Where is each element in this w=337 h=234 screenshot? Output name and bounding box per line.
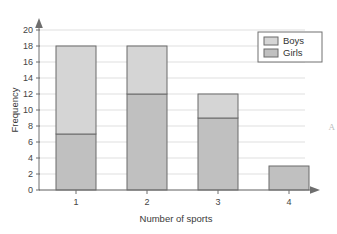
y-tick-label: 2 [28, 169, 33, 179]
y-tick-label: 18 [23, 41, 33, 51]
x-tick-label: 1 [73, 197, 78, 207]
bar-group-3 [198, 94, 238, 190]
legend-label-boys: Boys [283, 35, 304, 46]
y-tick-label: 16 [23, 57, 33, 67]
x-axis-ticks [76, 190, 289, 194]
bar-segment-boys [56, 46, 96, 134]
chart-legend: Boys Girls [258, 32, 322, 62]
x-axis-title: Number of sports [140, 213, 213, 224]
y-tick-label: 8 [28, 121, 33, 131]
y-tick-label: 10 [23, 105, 33, 115]
stacked-bar-chart: Bar chart A [0, 0, 337, 234]
bar-segment-girls [56, 134, 96, 190]
y-axis-tick-labels: 0 2 4 6 8 10 12 14 16 18 20 [23, 25, 33, 195]
y-tick-label: 14 [23, 73, 33, 83]
bar-segment-girls [198, 118, 238, 190]
y-tick-label: 6 [28, 137, 33, 147]
x-axis-arrow [310, 186, 320, 194]
x-tick-label: 2 [144, 197, 149, 207]
y-axis-title: Frequency [9, 87, 20, 132]
bar-segment-girls [127, 94, 167, 190]
y-tick-label: 4 [28, 153, 33, 163]
x-tick-label: 4 [286, 197, 291, 207]
bar-group-2 [127, 46, 167, 190]
bar-group-4 [269, 166, 309, 190]
x-axis-tick-labels: 1 2 3 4 [73, 197, 291, 207]
y-tick-label: 20 [23, 25, 33, 35]
legend-swatch-girls [264, 49, 278, 57]
x-tick-label: 3 [215, 197, 220, 207]
y-tick-label: 12 [23, 89, 33, 99]
chart-canvas: 0 2 4 6 8 10 12 14 16 18 20 [0, 0, 337, 234]
page-edge-artifact: A [329, 122, 336, 132]
bar-segment-girls [269, 166, 309, 190]
legend-swatch-boys [264, 37, 278, 45]
bar-segment-boys [198, 94, 238, 118]
y-axis-arrow [35, 18, 43, 28]
bar-segment-boys [127, 46, 167, 94]
y-tick-label: 0 [28, 185, 33, 195]
bar-group-1 [56, 46, 96, 190]
legend-label-girls: Girls [283, 47, 303, 58]
